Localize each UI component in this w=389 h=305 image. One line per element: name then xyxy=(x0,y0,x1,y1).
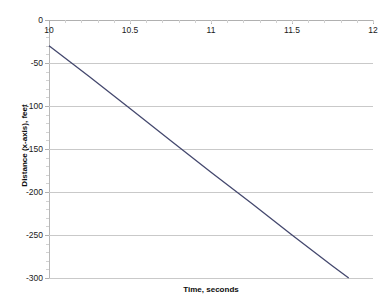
x-minor-tick-mark xyxy=(373,20,374,23)
y-minor-tick-mark xyxy=(46,244,49,245)
y-minor-tick-mark xyxy=(46,89,49,90)
gridline xyxy=(49,63,373,64)
x-tick-label: 10.5 xyxy=(122,25,139,35)
gridline xyxy=(49,106,373,107)
plot-area xyxy=(49,20,373,278)
y-minor-tick-mark xyxy=(46,209,49,210)
x-tick-mark xyxy=(49,20,50,24)
y-minor-tick-mark xyxy=(46,252,49,253)
y-minor-tick-mark xyxy=(46,115,49,116)
y-minor-tick-mark xyxy=(46,183,49,184)
line-chart: 1010.51111.512 0-50-100-150-200-250-300 … xyxy=(0,0,389,305)
y-minor-tick-mark xyxy=(46,166,49,167)
y-minor-tick-mark xyxy=(46,54,49,55)
y-minor-tick-mark xyxy=(46,123,49,124)
y-tick-label: -50 xyxy=(31,58,43,68)
x-minor-tick-mark xyxy=(211,20,212,23)
y-minor-tick-mark xyxy=(46,261,49,262)
y-minor-tick-mark xyxy=(46,80,49,81)
x-minor-tick-mark xyxy=(227,20,228,23)
x-minor-tick-mark xyxy=(98,20,99,23)
y-tick-mark xyxy=(45,278,49,279)
gridline xyxy=(49,235,373,236)
y-tick-mark xyxy=(45,149,49,150)
y-minor-tick-mark xyxy=(46,46,49,47)
x-minor-tick-mark xyxy=(130,20,131,23)
x-minor-tick-mark xyxy=(195,20,196,23)
y-tick-mark xyxy=(45,20,49,21)
y-minor-tick-mark xyxy=(46,72,49,73)
y-tick-label: 0 xyxy=(38,15,43,25)
x-minor-tick-mark xyxy=(81,20,82,23)
x-minor-tick-mark xyxy=(308,20,309,23)
gridline xyxy=(49,192,373,193)
x-tick-label: 12 xyxy=(368,25,377,35)
x-minor-tick-mark xyxy=(162,20,163,23)
y-tick-label: -100 xyxy=(26,101,43,111)
y-tick-mark xyxy=(45,235,49,236)
x-minor-tick-mark xyxy=(276,20,277,23)
y-tick-mark xyxy=(45,106,49,107)
gridline xyxy=(49,278,373,279)
y-minor-tick-mark xyxy=(46,226,49,227)
y-tick-label: -150 xyxy=(26,144,43,154)
x-minor-tick-mark xyxy=(260,20,261,23)
x-minor-tick-mark xyxy=(243,20,244,23)
y-minor-tick-mark xyxy=(46,37,49,38)
y-minor-tick-mark xyxy=(46,201,49,202)
y-tick-label: -300 xyxy=(26,273,43,283)
x-minor-tick-mark xyxy=(341,20,342,23)
y-minor-tick-mark xyxy=(46,218,49,219)
x-tick-label: 11 xyxy=(207,25,216,35)
x-tick-label: 10 xyxy=(44,25,53,35)
x-minor-tick-mark xyxy=(292,20,293,23)
y-tick-mark xyxy=(45,192,49,193)
x-minor-tick-mark xyxy=(179,20,180,23)
y-tick-mark xyxy=(45,63,49,64)
x-minor-tick-mark xyxy=(114,20,115,23)
gridline xyxy=(49,149,373,150)
x-axis-title: Time, seconds xyxy=(49,285,373,294)
y-minor-tick-mark xyxy=(46,175,49,176)
y-minor-tick-mark xyxy=(46,132,49,133)
y-minor-tick-mark xyxy=(46,97,49,98)
y-minor-tick-mark xyxy=(46,158,49,159)
y-tick-label: -250 xyxy=(26,230,43,240)
x-minor-tick-mark xyxy=(324,20,325,23)
y-minor-tick-mark xyxy=(46,269,49,270)
y-tick-label: -200 xyxy=(26,187,43,197)
x-minor-tick-mark xyxy=(65,20,66,23)
y-minor-tick-mark xyxy=(46,140,49,141)
x-tick-label: 11.5 xyxy=(284,25,300,35)
x-minor-tick-mark xyxy=(146,20,147,23)
x-minor-tick-mark xyxy=(357,20,358,23)
y-axis-title: Distance (x-axis), feet xyxy=(20,66,29,226)
